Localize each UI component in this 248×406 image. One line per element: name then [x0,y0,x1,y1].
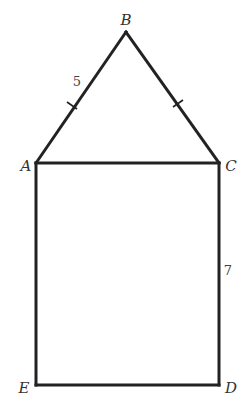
vertex-label-d: D [224,379,237,397]
measurement-label-ab: 5 [73,74,81,89]
segment-bc [126,32,219,163]
vertex-label-e: E [18,379,30,397]
vertex-label-c: C [225,157,237,175]
geometry-diagram: B A C E D 5 7 [0,0,248,406]
measurement-label-cd: 7 [224,263,232,278]
segment-ab [36,32,126,163]
vertex-label-b: B [119,11,131,29]
vertex-label-a: A [19,157,32,175]
